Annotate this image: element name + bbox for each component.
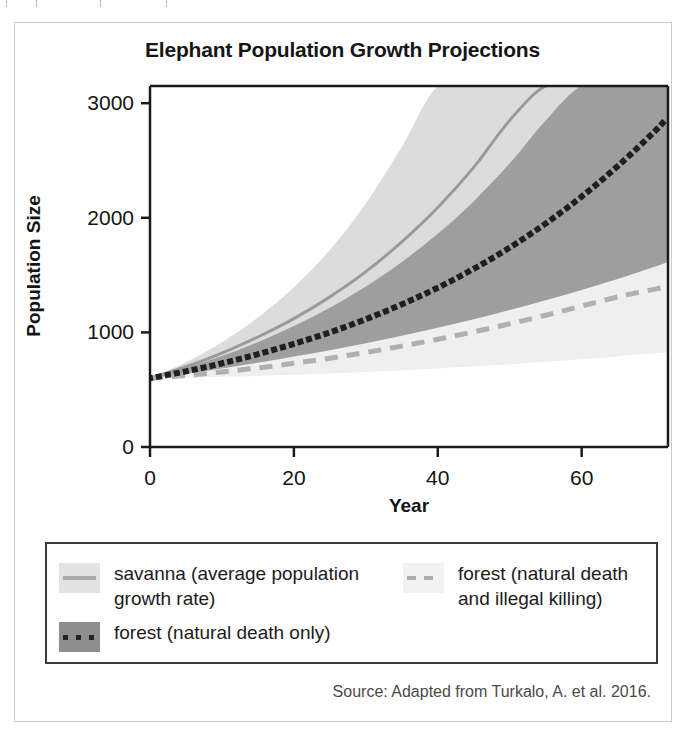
legend-swatch-savanna <box>59 563 100 593</box>
legend-label-forest-illegal-killing: forest (natural death and illegal killin… <box>458 561 653 611</box>
y-axis-label: Population Size <box>23 195 44 336</box>
x-tick-label: 60 <box>570 466 593 489</box>
legend-item-savanna: savanna (average population growth rate) <box>59 561 389 611</box>
x-tick-label: 20 <box>282 466 305 489</box>
y-tick-label: 0 <box>122 435 134 458</box>
x-tick-label: 40 <box>426 466 449 489</box>
legend-item-forest-illegal-killing: forest (natural death and illegal killin… <box>403 561 653 611</box>
legend-label-savanna: savanna (average population growth rate) <box>114 561 389 611</box>
chart-legend: savanna (average population growth rate)… <box>45 542 658 664</box>
y-tick-label: 2000 <box>87 206 134 229</box>
y-tick-label: 1000 <box>87 320 134 343</box>
confidence-bands <box>150 82 668 379</box>
x-axis-label: Year <box>389 495 430 516</box>
legend-label-forest-natural-death: forest (natural death only) <box>114 620 331 645</box>
legend-swatch-forest-natural-death <box>59 622 100 652</box>
figure-root: Elephant Population Growth Projections 0… <box>0 0 685 730</box>
y-tick-label: 3000 <box>87 91 134 114</box>
legend-item-forest-natural-death: forest (natural death only) <box>59 620 389 652</box>
x-tick-label: 0 <box>144 466 156 489</box>
source-note: Source: Adapted from Turkalo, A. et al. … <box>333 683 651 701</box>
legend-swatch-forest-illegal-killing <box>403 563 444 593</box>
